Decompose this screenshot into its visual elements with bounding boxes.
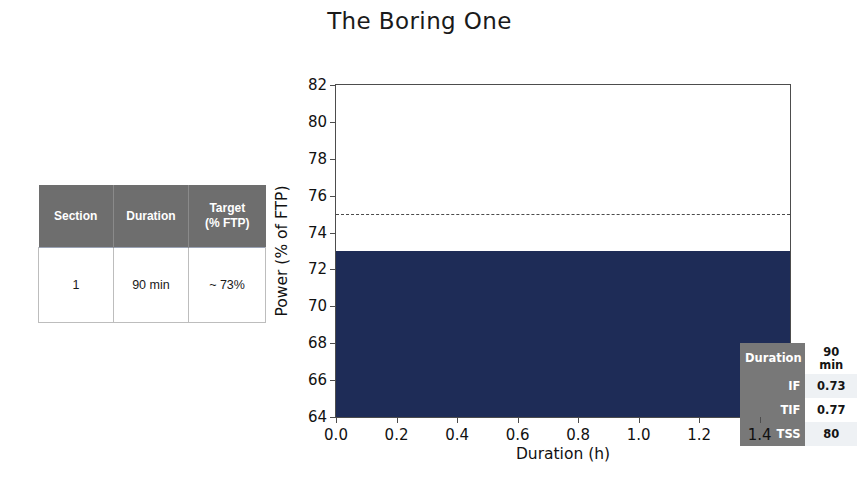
- metrics-value-tif: 0.77: [805, 398, 857, 422]
- metrics-value-tss: 80: [805, 422, 857, 446]
- column-header-target: Target (% FTP): [189, 185, 266, 248]
- y-axis-tick-label: 74: [308, 224, 327, 242]
- cell-duration: 90 min: [113, 248, 188, 323]
- x-axis-tick: [518, 417, 519, 423]
- x-axis-tick: [699, 417, 700, 423]
- y-axis-tick: [330, 122, 336, 123]
- x-axis-tick-label: 0.6: [506, 426, 530, 444]
- y-axis-tick-label: 76: [308, 187, 327, 205]
- x-axis-tick-label: 1.0: [627, 426, 651, 444]
- x-axis-tick-label: 0.4: [445, 426, 469, 444]
- x-axis-tick-label: 1.4: [748, 426, 772, 444]
- column-header-duration: Duration: [113, 185, 188, 248]
- y-axis-tick-label: 70: [308, 297, 327, 315]
- column-header-section: Section: [39, 185, 114, 248]
- column-header-target-sublabel: (% FTP): [205, 216, 250, 230]
- x-axis-tick-label: 0.8: [566, 426, 590, 444]
- metrics-value-duration: 90 min: [805, 343, 857, 374]
- y-axis-tick-label: 64: [308, 408, 327, 426]
- y-axis-tick: [330, 269, 336, 270]
- y-axis-tick: [330, 85, 336, 86]
- x-axis-tick: [760, 417, 761, 423]
- x-axis-label: Duration (h): [335, 445, 791, 463]
- y-axis-tick-label: 78: [308, 150, 327, 168]
- cell-target: ~ 73%: [189, 248, 266, 323]
- column-header-section-label: Section: [54, 209, 97, 223]
- table-row: 1 90 min ~ 73%: [39, 248, 266, 323]
- y-axis-label: Power (% of FTP): [272, 84, 292, 418]
- table-header-row: Section Duration Target (% FTP): [39, 185, 266, 248]
- axis-tick-layer: 646668707274767880820.00.20.40.60.81.01.…: [336, 85, 790, 417]
- workout-power-chart: Power (% of FTP) Duration 90 min IF 0.73…: [270, 60, 830, 475]
- y-axis-tick: [330, 233, 336, 234]
- y-axis-tick-label: 72: [308, 260, 327, 278]
- column-header-target-label: Target: [209, 201, 245, 215]
- workout-summary-table: Section Duration Target (% FTP) 1 90 min…: [38, 185, 266, 323]
- plot-area: Duration 90 min IF 0.73 TIF 0.77 TSS 80 …: [335, 84, 791, 418]
- metrics-value-if: 0.73: [805, 374, 857, 398]
- x-axis-tick: [397, 417, 398, 423]
- x-axis-tick-label: 0.0: [324, 426, 348, 444]
- x-axis-tick: [578, 417, 579, 423]
- page-title: The Boring One: [0, 8, 839, 34]
- column-header-duration-label: Duration: [126, 209, 175, 223]
- y-axis-tick: [330, 196, 336, 197]
- x-axis-tick: [457, 417, 458, 423]
- y-axis-tick: [330, 380, 336, 381]
- y-axis-tick: [330, 343, 336, 344]
- y-axis-tick-label: 80: [308, 113, 327, 131]
- x-axis-tick: [639, 417, 640, 423]
- y-axis-tick-label: 82: [308, 76, 327, 94]
- y-axis-tick-label: 68: [308, 334, 327, 352]
- cell-section: 1: [39, 248, 114, 323]
- x-axis-tick: [336, 417, 337, 423]
- x-axis-tick-label: 0.2: [385, 426, 409, 444]
- y-axis-tick: [330, 159, 336, 160]
- y-axis-tick-label: 66: [308, 371, 327, 389]
- y-axis-tick: [330, 306, 336, 307]
- x-axis-tick-label: 1.2: [687, 426, 711, 444]
